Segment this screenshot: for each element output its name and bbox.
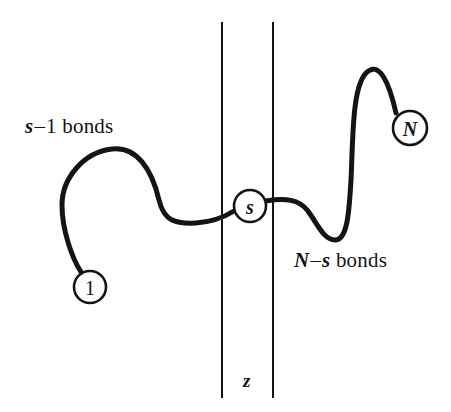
left-label-count: 1 xyxy=(46,114,57,138)
left-label-operator: – xyxy=(33,114,46,138)
node-end: N xyxy=(393,111,427,145)
node-contact: s xyxy=(234,190,266,222)
node-contact-label: s xyxy=(245,196,254,218)
chain-left-segment xyxy=(62,149,234,272)
right-label-symbol-second: s xyxy=(322,248,330,272)
chain-right-segment xyxy=(266,69,396,240)
slab-width-label: z xyxy=(243,371,250,390)
left-label-word: bonds xyxy=(62,114,113,138)
right-label-word: bonds xyxy=(336,248,387,272)
left-segment-bond-label: s–1 bonds xyxy=(25,116,113,137)
polymer-chain-diagram: 1 s N s–1 bonds N–s bonds z xyxy=(0,0,451,412)
diagram-canvas: 1 s N xyxy=(0,0,451,412)
node-end-label: N xyxy=(402,118,419,140)
right-label-operator: – xyxy=(309,248,322,272)
node-start: 1 xyxy=(74,271,106,303)
right-segment-bond-label: N–s bonds xyxy=(294,250,387,271)
right-label-symbol-first: N xyxy=(294,248,309,272)
node-start-label: 1 xyxy=(85,277,95,299)
